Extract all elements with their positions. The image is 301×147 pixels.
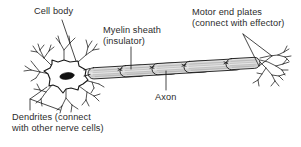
label-dendrites-line2: with other nerve cells) <box>12 123 104 134</box>
label-dendrites: Dendrites (connect with other nerve cell… <box>12 112 104 134</box>
label-dendrites-line1: Dendrites (connect <box>12 112 104 123</box>
label-cell-body: Cell body <box>34 6 73 17</box>
label-cell-body-line1: Cell body <box>34 6 73 17</box>
label-axon-line1: Axon <box>155 92 176 103</box>
leader-dendrites-b <box>30 99 60 110</box>
label-motor-line2: (connect with effector) <box>192 18 285 29</box>
myelin-sheath-segments <box>88 57 261 79</box>
label-motor-line1: Motor end plates <box>192 7 285 18</box>
neuron-diagram-figure: Cell body Myelin sheath (insulator) Moto… <box>0 0 301 147</box>
label-myelin-sheath: Myelin sheath (insulator) <box>103 25 161 47</box>
leader-dendrites-a <box>30 87 47 110</box>
label-myelin-line1: Myelin sheath <box>103 25 161 36</box>
label-motor-end-plates: Motor end plates (connect with effector) <box>192 7 285 29</box>
label-axon: Axon <box>155 92 176 103</box>
leader-motor-a <box>243 34 272 56</box>
label-myelin-line2: (insulator) <box>103 36 161 47</box>
